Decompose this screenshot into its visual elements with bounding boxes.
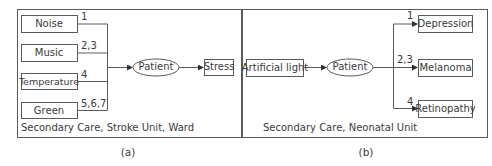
ref-label-retinopathy: 4 — [407, 96, 413, 108]
factor-label-green: Green — [34, 105, 64, 117]
setting-label-b: Secondary Care, Neonatal Unit — [263, 122, 417, 134]
outcome-label-retinopathy: Retinopathy — [415, 103, 475, 115]
outcome-label-depression: Depression — [418, 18, 474, 30]
arrow-to-retinopathy — [394, 68, 418, 109]
subject-label-b: Patient — [333, 61, 368, 73]
ref-label-music: 2,3 — [81, 40, 97, 52]
panel-caption-a: (a) — [121, 146, 136, 158]
ref-label-temperature: 4 — [81, 69, 87, 81]
ref-label-green: 5,6,7 — [81, 98, 106, 110]
ref-label-melanoma: 2,3 — [397, 54, 413, 66]
outcome-label-stress: Stress — [204, 61, 235, 73]
factor-label-noise: Noise — [35, 18, 63, 30]
outcome-label-melanoma: Melanoma — [419, 62, 471, 74]
panel-caption-b: (b) — [359, 146, 374, 158]
factor-label-artificial-light: Artificial light — [242, 62, 308, 74]
setting-label-a: Secondary Care, Stroke Unit, Ward — [21, 122, 194, 134]
subject-label-a: Patient — [139, 61, 174, 73]
ref-label-depression: 1 — [407, 10, 413, 22]
ref-label-noise: 1 — [81, 11, 87, 23]
factor-label-temperature: Temperature — [19, 76, 79, 88]
factor-label-music: Music — [35, 47, 63, 59]
